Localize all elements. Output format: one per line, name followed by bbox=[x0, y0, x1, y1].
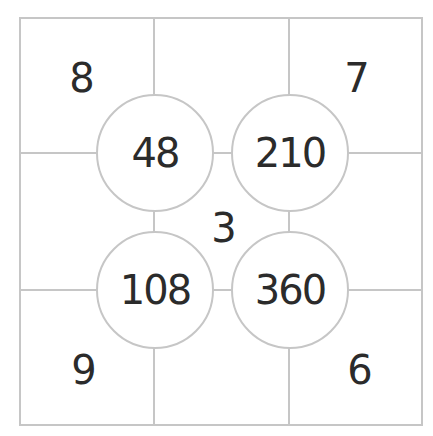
corner-number-top-left: 8 bbox=[69, 55, 94, 101]
corner-number-bottom-left: 9 bbox=[71, 347, 96, 393]
circle-product-bottom-right: 360 bbox=[231, 231, 349, 349]
circle-product-top-right: 210 bbox=[231, 94, 349, 212]
corner-number-top-right: 7 bbox=[344, 55, 369, 101]
grid-line-horizontal-bottom bbox=[19, 289, 423, 291]
grid-line-vertical-left bbox=[153, 17, 155, 426]
circle-product-bottom-left: 108 bbox=[96, 231, 214, 349]
grid-line-vertical-right bbox=[288, 17, 290, 426]
grid-line-horizontal-top bbox=[19, 152, 423, 154]
center-number: 3 bbox=[211, 205, 236, 251]
corner-number-bottom-right: 6 bbox=[347, 347, 372, 393]
circle-product-top-left: 48 bbox=[96, 94, 214, 212]
